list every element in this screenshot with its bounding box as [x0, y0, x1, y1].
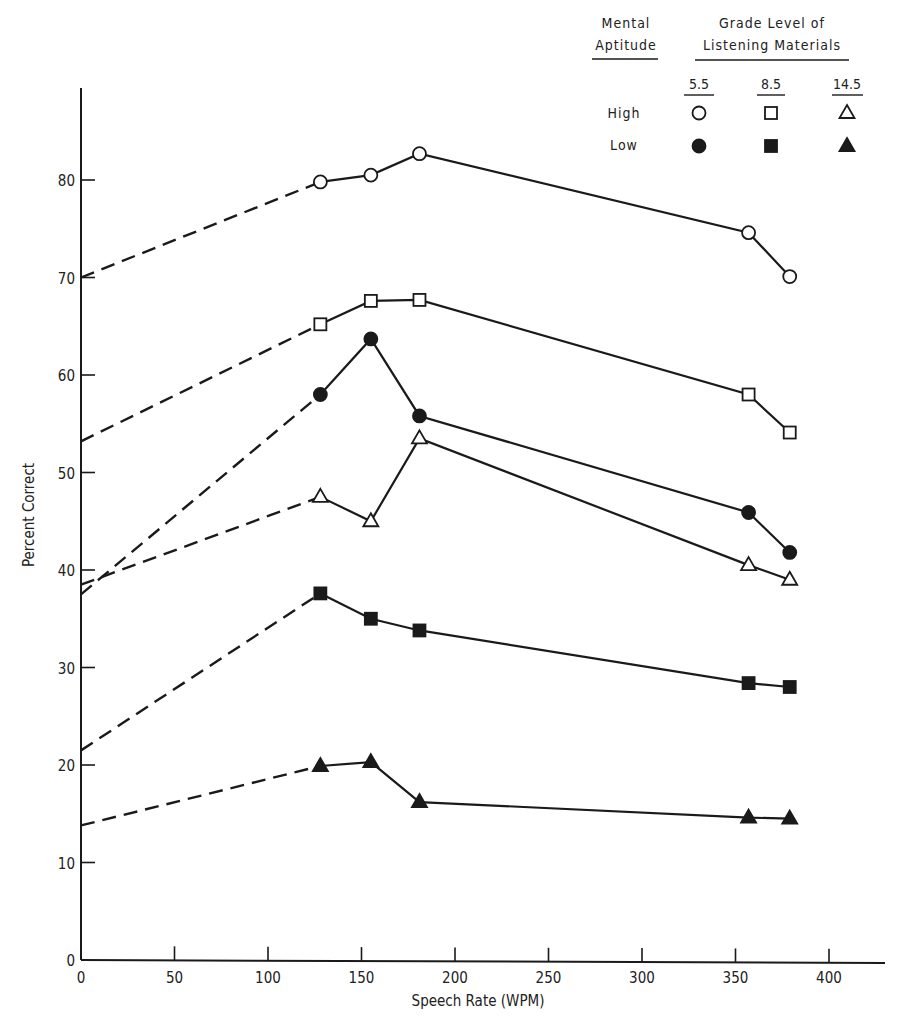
circle-marker: [314, 388, 327, 401]
series-line: [320, 593, 789, 687]
x-tick-label: 0: [77, 969, 86, 987]
square-marker: [413, 624, 425, 636]
legend-row-header-line1: Mental: [602, 15, 651, 31]
square-marker: [743, 677, 755, 689]
series-line: [320, 339, 789, 553]
legend-circle-filled-icon: [693, 140, 706, 153]
triangle-marker: [741, 810, 756, 823]
square-marker: [743, 389, 755, 401]
legend-col-header-line1: Grade Level of: [719, 15, 825, 31]
y-tick-label: 10: [58, 855, 75, 873]
triangle-marker: [782, 811, 797, 824]
circle-marker: [783, 270, 796, 283]
x-tick-label: 300: [629, 969, 655, 987]
x-tick-label: 350: [723, 969, 749, 987]
x-tick-label: 250: [536, 969, 562, 987]
series-layer: [81, 147, 797, 825]
legend-col-header-line2: Listening Materials: [703, 37, 841, 53]
circle-marker: [413, 147, 426, 160]
legend-row-high: High: [608, 105, 641, 121]
circle-marker: [314, 175, 327, 188]
series-high-8-5: [81, 294, 796, 441]
legend-circle-open-icon: [693, 107, 706, 120]
legend-col-8-5: 8.5: [761, 76, 781, 92]
series-line: [320, 438, 789, 579]
circle-marker: [742, 506, 755, 519]
series-high-5-5: [81, 147, 796, 283]
y-tick-label: 0: [66, 952, 75, 970]
x-axis-line: [81, 960, 885, 963]
legend: Mental Aptitude Grade Level of Listening…: [592, 15, 863, 153]
series-line: [320, 300, 789, 433]
x-axis-label: Speech Rate (WPM): [412, 992, 545, 1010]
extrapolation-line: [81, 766, 320, 825]
y-tick-label: 70: [58, 270, 75, 288]
x-tick-label: 50: [166, 969, 183, 987]
square-marker: [365, 613, 377, 625]
x-tick-label: 100: [255, 969, 281, 987]
triangle-marker: [363, 754, 378, 767]
series-low-5-5: [81, 332, 796, 594]
axes: 0102030405060708005010015020025030035040…: [58, 88, 885, 987]
x-tick-label: 150: [349, 969, 375, 987]
extrapolation-line: [81, 395, 320, 595]
legend-triangle-filled-icon: [840, 138, 855, 151]
square-marker: [365, 295, 377, 307]
series-line: [320, 154, 789, 277]
legend-markers: [693, 105, 855, 153]
series-low-8-5: [81, 587, 796, 750]
legend-row-header-line2: Aptitude: [595, 37, 657, 53]
x-tick-label: 400: [816, 969, 842, 987]
square-marker: [413, 294, 425, 306]
extrapolation-line: [81, 593, 320, 750]
extrapolation-line: [81, 497, 320, 585]
circle-marker: [364, 169, 377, 182]
triangle-marker: [313, 489, 328, 502]
extrapolation-line: [81, 182, 320, 278]
y-tick-label: 80: [58, 172, 75, 190]
square-marker: [314, 587, 326, 599]
y-tick-label: 50: [58, 465, 75, 483]
series-high-14-5: [81, 430, 797, 584]
legend-square-filled-icon: [765, 140, 777, 152]
y-tick-label: 60: [58, 367, 75, 385]
legend-square-open-icon: [765, 107, 777, 119]
circle-marker: [364, 332, 377, 345]
line-chart: 0102030405060708005010015020025030035040…: [0, 0, 900, 1030]
legend-col-5-5: 5.5: [689, 76, 709, 92]
square-marker: [784, 427, 796, 439]
circle-marker: [783, 546, 796, 559]
square-marker: [314, 318, 326, 330]
triangle-marker: [412, 794, 427, 807]
circle-marker: [742, 226, 755, 239]
series-low-14-5: [81, 754, 797, 825]
y-tick-label: 40: [58, 562, 75, 580]
y-tick-label: 30: [58, 660, 75, 678]
legend-row-low: Low: [610, 137, 638, 153]
y-axis-label: Percent Correct: [20, 463, 38, 567]
square-marker: [784, 681, 796, 693]
circle-marker: [413, 409, 426, 422]
triangle-marker: [412, 430, 427, 443]
series-line: [320, 762, 789, 819]
x-tick-label: 200: [442, 969, 468, 987]
y-tick-label: 20: [58, 757, 75, 775]
legend-triangle-open-icon: [840, 105, 855, 118]
legend-col-14-5: 14.5: [833, 76, 861, 92]
